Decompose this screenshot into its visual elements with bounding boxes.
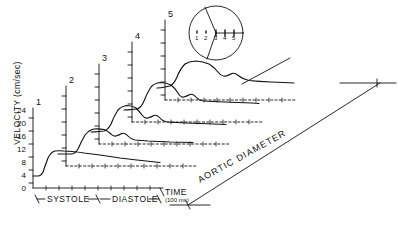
panel-5-axes xyxy=(161,20,295,102)
panel-label-1: 1 xyxy=(36,97,41,107)
x-axis-unit: (100 ms) xyxy=(165,197,189,203)
inset-position-2: 2 xyxy=(204,35,207,41)
y-tick-4: 4 xyxy=(10,171,26,180)
aortic-cross-section-inset xyxy=(189,6,243,60)
y-tick-0: 0 xyxy=(10,184,26,193)
x-axis-title: TIME xyxy=(165,187,187,197)
velocity-trace-3 xyxy=(91,106,226,133)
inset-position-4: 4 xyxy=(223,35,226,41)
inset-position-1: 1 xyxy=(195,35,198,41)
inset-position-3: 3 xyxy=(214,35,217,41)
y-tick-24: 24 xyxy=(10,106,26,115)
panel-label-2: 2 xyxy=(69,75,74,85)
panel-4-axes xyxy=(128,42,262,124)
velocity-trace-2 xyxy=(58,129,193,154)
velocity-trace-5 xyxy=(157,61,294,88)
panel-3-axes xyxy=(95,64,229,146)
panel-1-axes xyxy=(29,108,163,190)
velocity-trace-1 xyxy=(33,151,160,176)
y-axis-title: VELOCITY (cm/sec) xyxy=(12,48,22,158)
panel-label-5: 5 xyxy=(168,9,173,19)
depth-connector-5 xyxy=(242,58,290,84)
inset-position-5: 5 xyxy=(232,35,235,41)
panel-2-axes xyxy=(62,86,196,168)
velocity-profile-figure: VELOCITY (cm/sec) 0 4 8 12 16 20 24 1 2 … xyxy=(0,0,398,228)
phase-label-diastole: DIASTOLE xyxy=(112,194,158,204)
y-tick-16: 16 xyxy=(10,132,26,141)
velocity-trace-4 xyxy=(124,83,259,111)
panel-label-3: 3 xyxy=(102,53,107,63)
y-tick-8: 8 xyxy=(10,158,26,167)
phase-label-systole: SYSTOLE xyxy=(47,194,90,204)
y-tick-12: 12 xyxy=(10,145,26,154)
y-tick-20: 20 xyxy=(10,119,26,128)
panel-label-4: 4 xyxy=(135,31,140,41)
